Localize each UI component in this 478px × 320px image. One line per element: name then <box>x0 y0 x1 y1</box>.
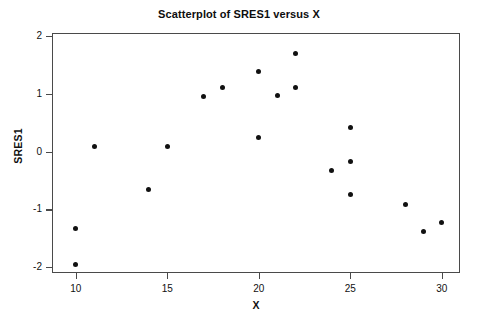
y-axis-tick <box>46 152 52 153</box>
x-axis-tick-label: 15 <box>152 283 182 294</box>
x-axis-tick <box>350 273 351 279</box>
y-axis-tick <box>46 267 52 268</box>
y-axis-tick-label: -1 <box>18 204 42 214</box>
y-axis-tick <box>46 36 52 37</box>
x-axis-tick <box>259 273 260 279</box>
chart-title: Scatterplot of SRES1 versus X <box>0 8 478 20</box>
x-axis-tick-label: 20 <box>244 283 274 294</box>
x-axis-tick-label: 10 <box>61 283 91 294</box>
scatterplot-figure: Scatterplot of SRES1 versus X 210-1-2 10… <box>0 0 478 320</box>
y-axis-tick-label: -2 <box>18 262 42 272</box>
y-axis-tick <box>46 209 52 210</box>
x-axis-tick-label: 25 <box>335 283 365 294</box>
plot-frame <box>52 33 460 273</box>
y-axis-tick <box>46 94 52 95</box>
x-axis-tick <box>442 273 443 279</box>
x-axis-title: X <box>52 299 460 311</box>
x-axis-tick <box>167 273 168 279</box>
y-axis-title: SRES1 <box>12 116 24 176</box>
x-axis-tick <box>76 273 77 279</box>
y-axis-tick-label: 1 <box>18 89 42 99</box>
x-axis-tick-label: 30 <box>427 283 457 294</box>
y-axis-tick-label: 2 <box>18 31 42 41</box>
